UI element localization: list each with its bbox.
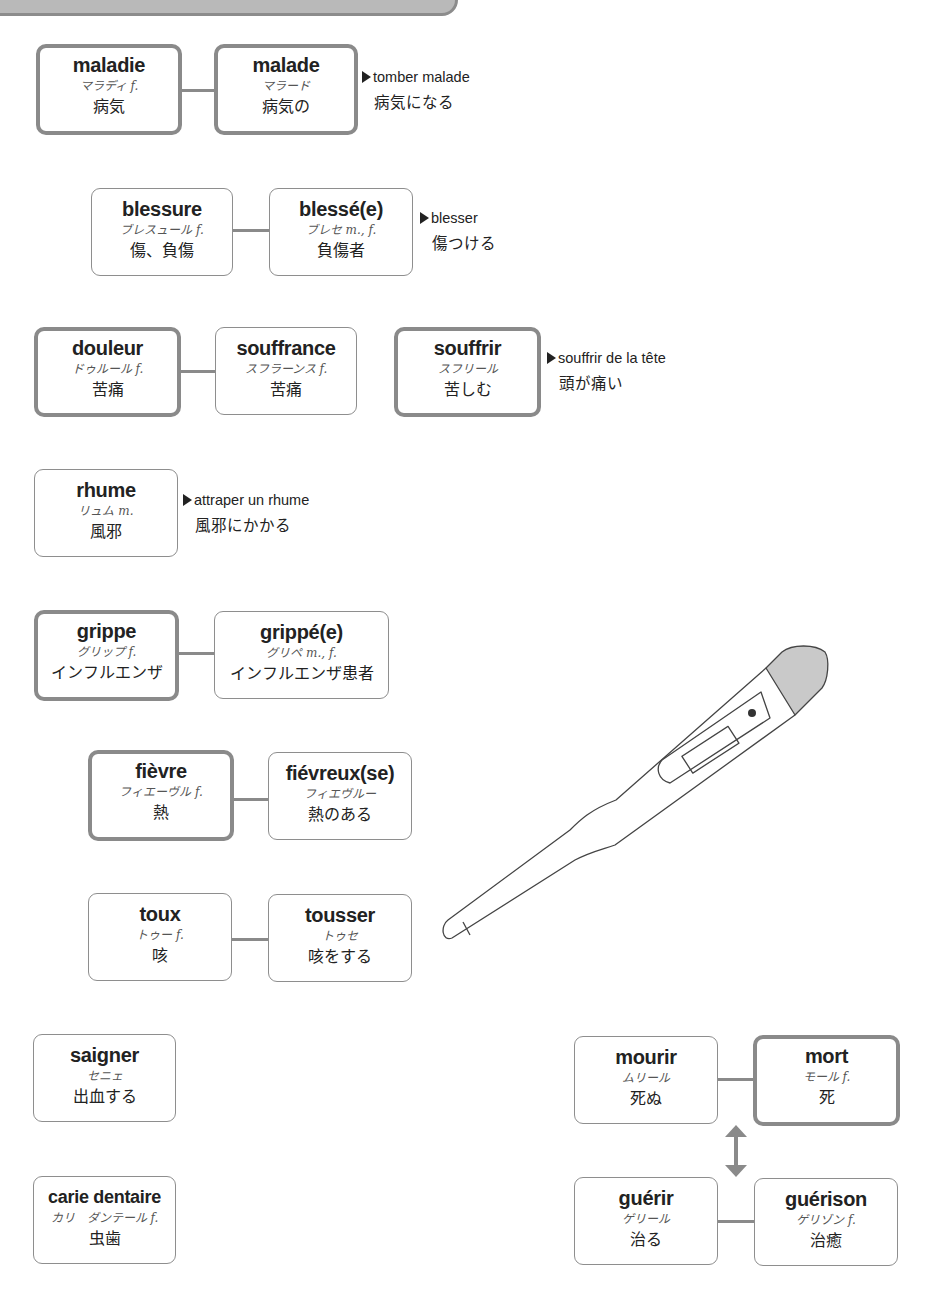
note-blesse: blesser 傷つける xyxy=(420,207,496,255)
word-ja: 咳をする xyxy=(269,945,411,969)
word-fr: grippé(e) xyxy=(215,620,388,644)
word-kana: スフラーンス f. xyxy=(216,360,356,378)
word-kana: ドゥルール f. xyxy=(38,360,177,378)
connector-line xyxy=(232,938,268,941)
card-blessure: blessure ブレスュール f. 傷、負傷 xyxy=(91,188,233,276)
word-kana: モール f. xyxy=(757,1068,896,1086)
note-malade: tomber malade 病気になる xyxy=(362,66,470,114)
word-ja: 傷、負傷 xyxy=(92,239,232,263)
card-mourir: mourir ムリール 死ぬ xyxy=(574,1036,718,1124)
triangle-bullet-icon xyxy=(547,352,556,364)
word-ja: 治癒 xyxy=(755,1229,897,1253)
word-fr: douleur xyxy=(38,336,177,360)
card-souffrir: souffrir スフリール 苦しむ xyxy=(394,327,541,417)
card-toux: toux トゥー f. 咳 xyxy=(88,893,232,981)
word-kana: マラード xyxy=(218,77,354,95)
word-ja: 病気の xyxy=(218,95,354,119)
triangle-bullet-icon xyxy=(183,494,192,506)
note-ja: 頭が痛い xyxy=(547,373,666,395)
word-ja: 治る xyxy=(575,1228,717,1252)
word-kana: ブレスュール f. xyxy=(92,221,232,239)
word-fr: fièvre xyxy=(92,759,230,783)
word-ja: 風邪 xyxy=(35,520,177,544)
card-saigner: saigner セニェ 出血する xyxy=(33,1034,176,1122)
word-kana: マラディ f. xyxy=(40,77,178,95)
card-mort: mort モール f. 死 xyxy=(753,1035,900,1126)
connector-line xyxy=(181,370,215,373)
card-guerison: guérison ゲリゾン f. 治癒 xyxy=(754,1178,898,1266)
word-ja: 熱 xyxy=(92,801,230,825)
card-tousser: tousser トゥセ 咳をする xyxy=(268,894,412,982)
word-fr: guérison xyxy=(755,1187,897,1211)
section-header-banner xyxy=(0,0,458,16)
card-grippe: grippe グリップ f. インフルエンザ xyxy=(34,610,179,701)
note-fr: tomber malade xyxy=(373,69,470,85)
word-kana: フィエヴルー xyxy=(269,785,411,803)
word-fr: saigner xyxy=(34,1043,175,1067)
note-souffrir: souffrir de la tête 頭が痛い xyxy=(547,347,666,395)
note-ja: 病気になる xyxy=(362,92,470,114)
connector-line xyxy=(233,229,269,232)
word-fr: toux xyxy=(89,902,231,926)
word-ja: 熱のある xyxy=(269,803,411,827)
word-kana: トゥセ xyxy=(269,927,411,945)
word-kana: グリペ m., f. xyxy=(215,644,388,662)
connector-line xyxy=(182,89,214,92)
connector-line xyxy=(718,1220,754,1223)
word-fr: souffrance xyxy=(216,336,356,360)
card-malade: malade マラード 病気の xyxy=(214,44,358,135)
word-ja: 死ぬ xyxy=(575,1087,717,1111)
word-fr: carie dentaire xyxy=(34,1185,175,1209)
card-souffrance: souffrance スフラーンス f. 苦痛 xyxy=(215,327,357,415)
connector-line xyxy=(179,652,214,655)
word-kana: リュム m. xyxy=(35,502,177,520)
connector-line xyxy=(718,1078,754,1081)
note-fr: blesser xyxy=(431,210,478,226)
word-kana: スフリール xyxy=(398,360,537,378)
word-fr: souffrir xyxy=(398,336,537,360)
opposite-arrow-icon xyxy=(725,1125,747,1177)
note-fr: attraper un rhume xyxy=(194,492,309,508)
word-fr: mourir xyxy=(575,1045,717,1069)
word-ja: 負傷者 xyxy=(270,239,412,263)
note-fr: souffrir de la tête xyxy=(558,350,666,366)
word-fr: blessé(e) xyxy=(270,197,412,221)
word-fr: grippe xyxy=(38,619,175,643)
word-kana: セニェ xyxy=(34,1067,175,1085)
word-kana: グリップ f. xyxy=(38,643,175,661)
note-ja: 風邪にかかる xyxy=(183,515,309,537)
word-fr: blessure xyxy=(92,197,232,221)
card-fievre: fièvre フィエーヴル f. 熱 xyxy=(88,750,234,841)
card-maladie: maladie マラディ f. 病気 xyxy=(36,44,182,135)
word-kana: ブレセ m., f. xyxy=(270,221,412,239)
word-kana: カリ ダンテール f. xyxy=(34,1209,175,1227)
triangle-bullet-icon xyxy=(420,212,429,224)
thermometer-icon xyxy=(430,630,850,960)
card-rhume: rhume リュム m. 風邪 xyxy=(34,469,178,557)
triangle-bullet-icon xyxy=(362,71,371,83)
word-ja: インフルエンザ患者 xyxy=(215,662,388,686)
word-kana: ムリール xyxy=(575,1069,717,1087)
card-carie-dentaire: carie dentaire カリ ダンテール f. 虫歯 xyxy=(33,1176,176,1264)
word-ja: 苦しむ xyxy=(398,378,537,402)
word-kana: ゲリール xyxy=(575,1210,717,1228)
card-blesse: blessé(e) ブレセ m., f. 負傷者 xyxy=(269,188,413,276)
word-ja: 出血する xyxy=(34,1085,175,1109)
connector-line xyxy=(234,798,268,801)
word-kana: ゲリゾン f. xyxy=(755,1211,897,1229)
card-guerir: guérir ゲリール 治る xyxy=(574,1177,718,1265)
note-ja: 傷つける xyxy=(420,233,496,255)
word-kana: フィエーヴル f. xyxy=(92,783,230,801)
word-fr: guérir xyxy=(575,1186,717,1210)
word-ja: 苦痛 xyxy=(216,378,356,402)
card-fievreux: fiévreux(se) フィエヴルー 熱のある xyxy=(268,752,412,840)
word-fr: maladie xyxy=(40,53,178,77)
word-kana: トゥー f. xyxy=(89,926,231,944)
word-fr: fiévreux(se) xyxy=(269,761,411,785)
word-ja: 死 xyxy=(757,1086,896,1110)
word-ja: 病気 xyxy=(40,95,178,119)
note-rhume: attraper un rhume 風邪にかかる xyxy=(183,489,309,537)
word-ja: 虫歯 xyxy=(34,1227,175,1251)
word-fr: rhume xyxy=(35,478,177,502)
card-grippe-e: grippé(e) グリペ m., f. インフルエンザ患者 xyxy=(214,611,389,699)
